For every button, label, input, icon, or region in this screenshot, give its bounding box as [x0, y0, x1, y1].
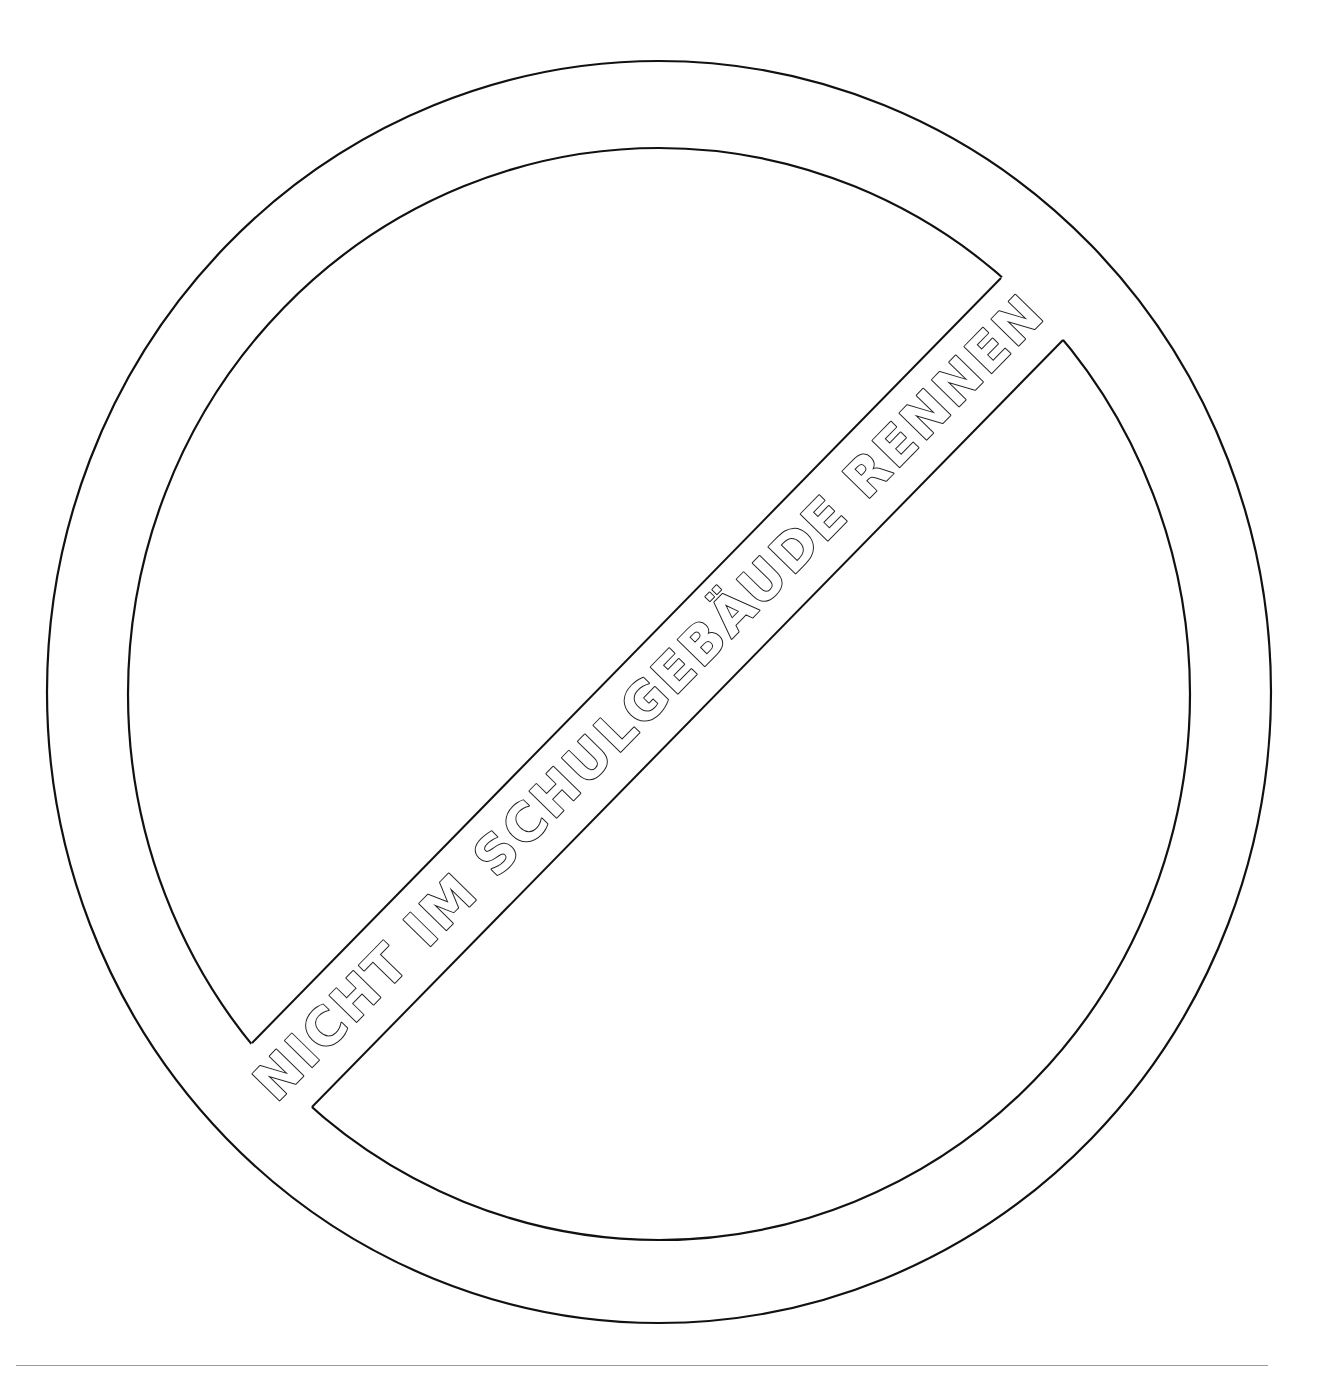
prohibition-sign: NICHT IM SCHULGEBÄUDE RENNEN	[0, 0, 1319, 1382]
bottom-divider	[16, 1365, 1268, 1366]
